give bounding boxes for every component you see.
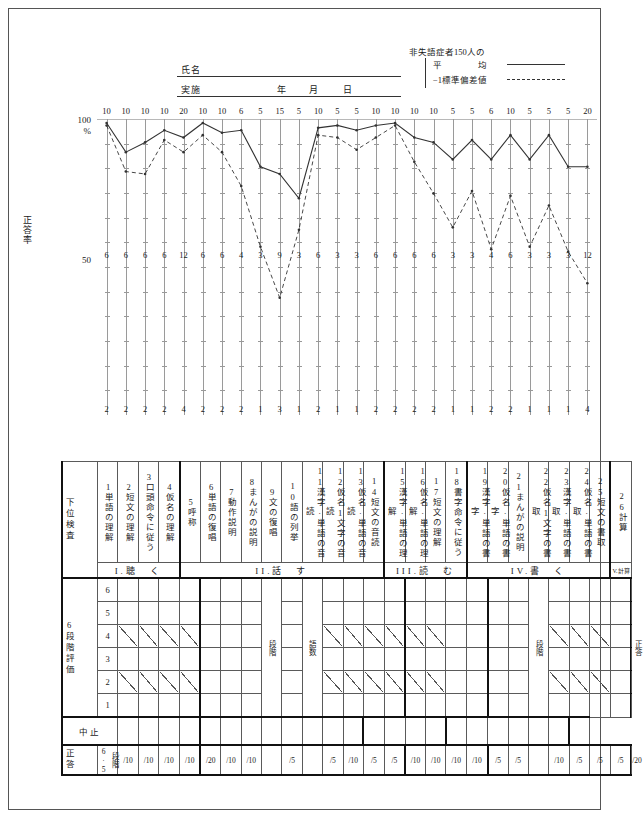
rating-cell-18-5[interactable]	[467, 602, 488, 625]
rating-cell-11-6[interactable]	[323, 578, 343, 602]
discontinue-cell-23[interactable]	[508, 717, 528, 745]
rating-cell-14-6[interactable]	[384, 578, 405, 602]
rating-cell-9-6[interactable]	[282, 578, 302, 602]
rating-cell-12-5[interactable]	[343, 602, 363, 625]
denominator-cell-14[interactable]: /5	[384, 745, 405, 775]
rating-cell-22-4[interactable]	[549, 625, 569, 648]
rating-cell-16-3[interactable]	[426, 648, 446, 671]
discontinue-cell-11[interactable]	[282, 717, 302, 745]
rating-cell-4-2[interactable]	[180, 671, 201, 694]
rating-cell-9-2[interactable]	[282, 671, 302, 694]
rating-cell-14-1[interactable]	[384, 694, 405, 718]
discontinue-cell-17[interactable]	[405, 717, 425, 745]
rating-cell-7-4[interactable]	[241, 625, 261, 648]
rating-cell-6-4[interactable]	[221, 625, 241, 648]
rating-cell-11-2[interactable]	[323, 671, 343, 694]
discontinue-cell-14[interactable]	[343, 717, 363, 745]
subtest-cell-23[interactable]: 23漢字·単語の書取	[549, 462, 569, 563]
denominator-cell-17[interactable]: /10	[446, 745, 467, 775]
subtest-cell-17[interactable]: 17短文の理解	[426, 462, 446, 563]
rating-cell-17-6[interactable]	[446, 578, 467, 602]
rating-cell-12-4[interactable]	[343, 625, 363, 648]
subtest-cell-9[interactable]: 9文の復唱	[262, 462, 282, 563]
subtest-cell-16[interactable]: 16仮名·単語の理解	[405, 462, 425, 563]
rating-cell-3-3[interactable]	[159, 648, 180, 671]
subtest-cell-8[interactable]: 8まんがの説明	[241, 462, 261, 563]
subtest-cell-10[interactable]: 10語の列挙	[282, 462, 302, 563]
rating-cell-17-4[interactable]	[446, 625, 467, 648]
rating-cell-18-2[interactable]	[467, 671, 488, 694]
subtest-cell-11[interactable]: 11漢字·単語の音読	[302, 462, 322, 563]
rating-cell-9-5[interactable]	[282, 602, 302, 625]
subtest-cell-21[interactable]: 21まんがの説明	[508, 462, 528, 563]
denominator-cell-22[interactable]: /10	[549, 745, 569, 775]
subtest-cell-1[interactable]: 1単語の理解	[98, 462, 118, 563]
denominator-cell-15[interactable]: /10	[405, 745, 425, 775]
rating-cell-2-3[interactable]	[138, 648, 158, 671]
denominator-cell-20[interactable]: /5	[508, 745, 528, 775]
rating-cell-15-4[interactable]	[405, 625, 425, 648]
denominator-cell-11[interactable]: /5	[323, 745, 343, 775]
rating-cell-14-4[interactable]	[384, 625, 405, 648]
subtest-cell-18[interactable]: 18書字命令に従う	[446, 462, 467, 563]
rating-cell-6-1[interactable]	[221, 694, 241, 718]
rating-cell-11-5[interactable]	[323, 602, 343, 625]
rating-cell-7-3[interactable]	[241, 648, 261, 671]
rating-cell-25-3[interactable]	[610, 648, 631, 671]
rating-cell-16-5[interactable]	[426, 602, 446, 625]
rating-cell-5-4[interactable]	[200, 625, 220, 648]
rating-cell-18-6[interactable]	[467, 578, 488, 602]
rating-cell-23-2[interactable]	[569, 671, 589, 694]
denominator-cell-24[interactable]: /5	[590, 745, 611, 775]
rating-cell-22-5[interactable]	[549, 602, 569, 625]
rating-cell-13-3[interactable]	[363, 648, 384, 671]
special-col-10[interactable]: 語数	[302, 578, 322, 717]
subtest-cell-7[interactable]: 7動作説明	[221, 462, 241, 563]
rating-cell-16-4[interactable]	[426, 625, 446, 648]
rating-cell-18-3[interactable]	[467, 648, 488, 671]
rating-cell-19-3[interactable]	[488, 648, 508, 671]
rating-cell-3-4[interactable]	[159, 625, 180, 648]
denominator-cell-2[interactable]: /10	[138, 745, 158, 775]
rating-cell-7-1[interactable]	[241, 694, 261, 718]
rating-cell-5-6[interactable]	[200, 578, 220, 602]
denominator-cell-1[interactable]: /10	[118, 745, 138, 775]
rating-cell-20-1[interactable]	[508, 694, 528, 718]
rating-cell-7-6[interactable]	[241, 578, 261, 602]
rating-cell-3-6[interactable]	[159, 578, 180, 602]
rating-cell-5-1[interactable]	[200, 694, 220, 718]
rating-cell-19-1[interactable]	[488, 694, 508, 718]
rating-cell-25-6[interactable]	[610, 578, 631, 602]
rating-cell-13-6[interactable]	[363, 578, 384, 602]
rating-cell-12-2[interactable]	[343, 671, 363, 694]
discontinue-cell-24[interactable]	[528, 717, 548, 745]
rating-cell-12-3[interactable]	[343, 648, 363, 671]
rating-cell-4-4[interactable]	[180, 625, 201, 648]
rating-cell-11-4[interactable]	[323, 625, 343, 648]
discontinue-cell-19[interactable]	[446, 717, 467, 745]
rating-cell-15-3[interactable]	[405, 648, 425, 671]
rating-cell-3-2[interactable]	[159, 671, 180, 694]
subtest-cell-26[interactable]: 26計算	[610, 462, 631, 563]
rating-cell-3-1[interactable]	[159, 694, 180, 718]
rating-cell-13-5[interactable]	[363, 602, 384, 625]
rating-cell-22-3[interactable]	[549, 648, 569, 671]
rating-cell-24-6[interactable]	[590, 578, 611, 602]
denominator-cell-18[interactable]: /10	[467, 745, 488, 775]
rating-cell-2-1[interactable]	[138, 694, 158, 718]
rating-cell-6-5[interactable]	[221, 602, 241, 625]
rating-cell-16-2[interactable]	[426, 671, 446, 694]
special-col-21[interactable]: 段階	[528, 578, 548, 717]
discontinue-cell-2[interactable]	[138, 717, 158, 745]
rating-cell-13-2[interactable]	[363, 671, 384, 694]
rating-cell-25-4[interactable]	[610, 625, 631, 648]
discontinue-cell-25[interactable]	[549, 717, 569, 745]
rating-cell-20-6[interactable]	[508, 578, 528, 602]
discontinue-cell-15[interactable]	[363, 717, 384, 745]
rating-cell-17-5[interactable]	[446, 602, 467, 625]
rating-cell-24-4[interactable]	[590, 625, 611, 648]
rating-cell-1-6[interactable]	[118, 578, 138, 602]
denominator-cell-25[interactable]: /5	[610, 745, 631, 775]
denominator-cell-4[interactable]: /10	[180, 745, 201, 775]
rating-cell-5-3[interactable]	[200, 648, 220, 671]
